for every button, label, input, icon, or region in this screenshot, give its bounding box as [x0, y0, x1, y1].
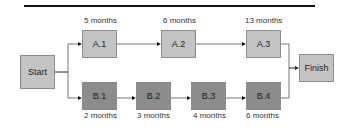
node-b1[interactable]: B.1: [82, 82, 117, 110]
node-a3[interactable]: A.3: [246, 30, 281, 58]
edge-start-a1: [54, 44, 81, 72]
node-start[interactable]: Start: [20, 55, 55, 89]
duration-a2: 6 months: [163, 16, 196, 25]
edge-start-b1: [54, 72, 81, 98]
node-b3[interactable]: B.3: [191, 82, 226, 110]
node-b4[interactable]: B.4: [246, 82, 281, 110]
duration-b2: 3 months: [137, 111, 170, 120]
node-finish[interactable]: Finish: [299, 54, 334, 82]
node-b2[interactable]: B.2: [136, 82, 171, 110]
duration-b3: 4 months: [193, 111, 226, 120]
duration-b4: 6 months: [246, 111, 279, 120]
edge-a3-finish: [280, 44, 298, 68]
node-a1[interactable]: A.1: [82, 30, 117, 58]
duration-b1: 2 months: [84, 111, 117, 120]
duration-a1: 5 months: [84, 16, 117, 25]
duration-a3: 13 months: [245, 16, 282, 25]
node-a2[interactable]: A.2: [161, 30, 196, 58]
edge-b4-finish: [280, 68, 298, 98]
